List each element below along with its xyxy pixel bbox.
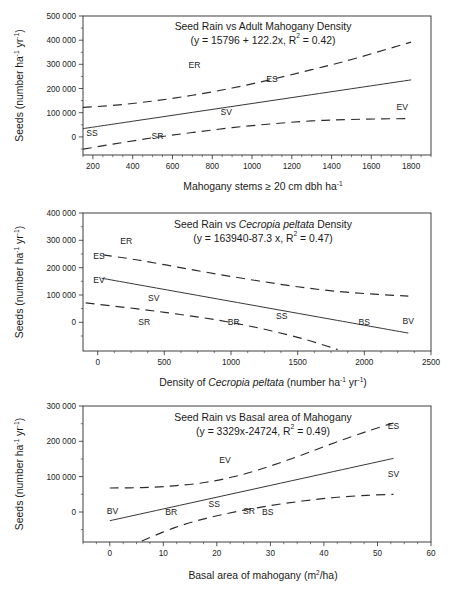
panel-1-svg: ERESSVEVSSSR2004006008001000120014001600… [0,0,456,198]
x-tick-label: 1000 [243,162,262,171]
y-tick-label: 200 000 [46,437,76,446]
point-label-ev: EV [219,455,231,465]
x-tick-label: 1400 [322,162,341,171]
y-tick-label: 300 000 [46,60,76,69]
y-tick-label: 0 [71,133,76,142]
y-tick-label: 300 000 [46,402,76,411]
x-tick-label: 30 [266,549,276,558]
y-tick-label: 200 000 [46,85,76,94]
point-label-sv: SV [220,107,232,117]
y-tick-label: 0 [71,508,76,517]
point-label-er: ER [120,236,132,246]
chart-panel-3: ESEVSVBVBRSSSRBS01020304050600100 000200… [0,392,456,592]
point-label-bs: BS [262,507,274,517]
point-label-ev: EV [396,102,408,112]
x-tick-label: 1600 [362,162,381,171]
x-axis-label: Mahogany stems ≥ 20 cm dbh ha-1 [183,180,343,192]
y-tick-label: 300 000 [46,236,76,245]
x-tick-label: 10 [159,549,169,558]
y-axis-label: Seeds (number ha-1 yr-1) [13,418,25,530]
x-tick-label: 400 [126,162,140,171]
x-tick-label: 2000 [355,358,374,367]
x-tick-label: 1000 [222,358,241,367]
y-tick-label: 500 000 [46,12,76,21]
x-axis-label: Basal area of mahogany (m2/ha) [188,569,337,581]
x-tick-label: 50 [373,549,383,558]
x-tick-label: 600 [166,162,180,171]
y-axis: 0100 000200 000300 000400 000500 000 [46,12,83,149]
point-label-es: ES [266,74,278,84]
point-label-ss: SS [276,311,288,321]
point-label-sv: SV [148,293,160,303]
x-tick-label: 0 [95,358,100,367]
point-label-sr: SR [152,131,164,141]
chart-panel-1: ERESSVEVSSSR2004006008001000120014001600… [0,0,456,198]
y-tick-label: 400 000 [46,36,76,45]
x-tick-label: 60 [426,549,436,558]
y-axis: 0100 000200 000300 000400 000 [46,209,83,336]
chart-panel-2: ERESEVSVSRBRSSBSBV0500100015002000250001… [0,196,456,394]
x-tick-label: 1500 [289,358,308,367]
point-label-bv: BV [107,506,119,516]
x-tick-label: 500 [157,358,171,367]
y-tick-label: 100 000 [46,473,76,482]
y-tick-label: 0 [71,318,76,327]
point-label-bv: BV [403,316,415,326]
y-tick-label: 200 000 [46,264,76,273]
panel-title: Seed Rain vs Cecropia peltata Density [174,219,353,230]
point-label-sr: SR [138,317,150,327]
figure-root: ERESSVEVSSSR2004006008001000120014001600… [0,0,456,592]
point-label-er: ER [188,60,200,70]
panel-2-svg: ERESEVSVSRBRSSBSBV0500100015002000250001… [0,196,456,394]
x-tick-label: 2500 [422,358,441,367]
panel-title: Seed Rain vs Basal area of Mahogany [174,412,352,423]
x-tick-label: 0 [108,549,113,558]
x-tick-label: 1800 [402,162,421,171]
x-tick-label: 1200 [283,162,302,171]
point-label-ss: SS [86,128,98,138]
point-label-br: BR [228,317,240,327]
point-label-ev: EV [93,275,105,285]
y-axis-label: Seeds (number ha-1 yr-1) [13,29,25,141]
x-tick-label: 20 [212,549,222,558]
point-label-es: ES [388,421,400,431]
point-label-es: ES [93,251,105,261]
x-axis: 20040060080010001200140016001800 [83,155,431,171]
y-tick-label: 100 000 [46,291,76,300]
y-tick-label: 100 000 [46,109,76,118]
point-label-sv: SV [388,469,400,479]
x-tick-label: 800 [205,162,219,171]
y-axis: 0100 000200 000300 000 [46,402,83,530]
point-label-sr: SR [243,506,255,516]
x-axis-label: Density of Cecropia peltata (number ha-1… [159,376,367,388]
y-tick-label: 400 000 [46,209,76,218]
point-label-bs: BS [359,317,371,327]
panel-3-svg: ESEVSVBVBRSSSRBS01020304050600100 000200… [0,392,456,592]
x-axis: 05001000150020002500 [95,351,440,367]
point-label-br: BR [165,507,177,517]
x-tick-label: 200 [86,162,100,171]
point-label-ss: SS [208,499,220,509]
y-axis-label: Seeds (number ha-1 yr-1) [13,226,25,338]
x-axis: 0102030405060 [83,542,436,558]
panel-title: Seed Rain vs Adult Mahogany Density [175,21,353,32]
x-tick-label: 40 [319,549,329,558]
